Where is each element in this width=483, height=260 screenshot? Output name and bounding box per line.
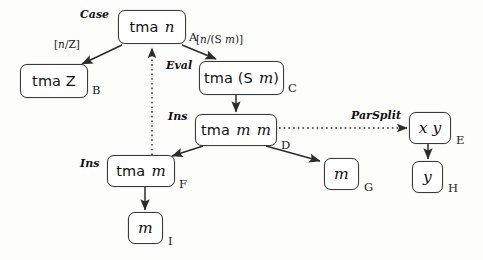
node-tma-n[interactable]: tma n [118,10,186,44]
rule-label-ins-left: Ins [80,157,99,170]
edge-a-c [182,45,216,59]
node-tag-d: D [281,138,290,152]
node-tag-i: I [168,234,173,248]
node-tma-z[interactable]: tma Z [20,64,88,98]
node-tma-n-label: tma n [130,18,175,36]
node-tag-e: E [456,133,464,147]
node-tag-b: B [92,83,100,97]
node-m-i[interactable]: m [128,212,163,244]
node-tma-m-label: tma m [116,162,166,180]
node-tag-h: H [448,181,458,195]
rule-label-ins-top: Ins [168,110,187,123]
edge-d-g [266,146,320,161]
node-tma-m-m-label: tma m m [201,121,271,139]
rule-label-eval: Eval [166,59,192,72]
node-y-label: y [423,168,432,186]
node-y[interactable]: y [412,161,443,193]
edge-d-f [172,146,203,156]
node-x-y-label: x y [419,119,442,137]
node-tma-s-m-label: tma (S m) [204,69,279,87]
node-tma-s-m[interactable]: tma (S m) [199,61,284,95]
node-tag-g: G [364,180,373,194]
diagram-canvas: tma n A tma Z B tma (S m) C tma m m D x … [0,0,483,260]
node-tag-c: C [288,81,297,95]
node-tma-z-label: tma Z [32,73,76,89]
node-x-y[interactable]: x y [409,112,451,144]
node-tma-m-m[interactable]: tma m m [195,114,277,146]
node-tma-m[interactable]: tma m [107,155,175,187]
subst-label-n-z: [n/Z] [54,38,80,50]
subst-label-n-sm: [n/(S m)] [196,33,243,45]
node-m-i-label: m [138,219,153,237]
rule-label-case: Case [80,8,109,21]
node-tag-f: F [179,177,187,191]
node-m-g-label: m [334,165,349,183]
edge-a-b [82,45,122,64]
rule-label-parsplit: ParSplit [351,109,401,122]
node-m-g[interactable]: m [324,158,359,190]
